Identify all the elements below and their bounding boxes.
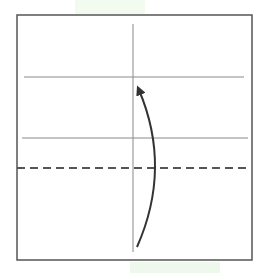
origami-diagram xyxy=(0,0,258,273)
caption-text xyxy=(20,264,240,273)
